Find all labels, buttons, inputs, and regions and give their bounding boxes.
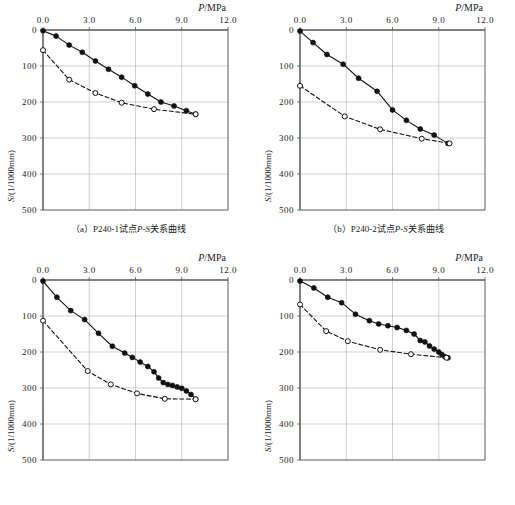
y-tick-label: 100 bbox=[279, 311, 294, 321]
x-tick-label: 9.0 bbox=[432, 15, 445, 25]
y-tick-label: 0 bbox=[289, 25, 294, 35]
data-point-filled bbox=[339, 300, 344, 305]
data-point-open bbox=[119, 100, 124, 105]
x-axis-title-unit: /MPa bbox=[204, 252, 226, 263]
data-point-filled bbox=[165, 382, 170, 387]
y-axis-title-unit: /(1/1000mm) bbox=[6, 400, 16, 448]
data-point-open bbox=[378, 347, 383, 352]
data-point-filled bbox=[390, 107, 395, 112]
x-tick-label: 3.0 bbox=[340, 265, 353, 275]
data-point-filled bbox=[179, 386, 184, 391]
data-point-filled bbox=[404, 118, 409, 123]
data-point-filled bbox=[132, 83, 137, 88]
x-tick-label: 3.0 bbox=[83, 265, 96, 275]
data-point-open bbox=[298, 83, 303, 88]
x-axis-title: P/MPa bbox=[197, 252, 226, 263]
data-point-filled bbox=[80, 50, 85, 55]
x-tick-label: 9.0 bbox=[175, 265, 188, 275]
data-point-open bbox=[345, 339, 350, 344]
x-tick-label: 0.0 bbox=[294, 265, 307, 275]
y-tick-label: 500 bbox=[22, 455, 37, 465]
data-point-filled bbox=[138, 360, 143, 365]
data-point-filled bbox=[158, 100, 163, 105]
y-tick-label: 100 bbox=[279, 61, 294, 71]
data-point-filled bbox=[376, 321, 381, 326]
data-point-filled bbox=[432, 133, 437, 138]
y-tick-label: 500 bbox=[22, 205, 37, 215]
data-point-filled bbox=[311, 40, 316, 45]
data-point-filled bbox=[122, 351, 127, 356]
data-point-filled bbox=[184, 388, 189, 393]
x-tick-label: 0.0 bbox=[294, 15, 307, 25]
data-point-filled bbox=[93, 58, 98, 63]
x-tick-label: 6.0 bbox=[129, 265, 142, 275]
y-tick-label: 400 bbox=[279, 419, 294, 429]
x-tick-label: 6.0 bbox=[386, 265, 399, 275]
data-point-filled bbox=[170, 383, 175, 388]
data-point-filled bbox=[298, 279, 303, 284]
x-axis-title: P/MPa bbox=[454, 2, 483, 13]
data-point-filled bbox=[41, 28, 46, 33]
data-point-open bbox=[67, 77, 72, 82]
data-point-filled bbox=[110, 344, 115, 349]
x-tick-label: 0.0 bbox=[37, 265, 50, 275]
y-tick-label: 0 bbox=[289, 275, 294, 285]
data-point-filled bbox=[422, 339, 427, 344]
data-point-filled bbox=[395, 325, 400, 330]
caption-b-prefix: （b）P240-2试点 bbox=[328, 224, 395, 234]
data-point-open bbox=[108, 382, 113, 387]
data-point-filled bbox=[418, 338, 423, 343]
data-point-filled bbox=[311, 285, 316, 290]
data-point-filled bbox=[96, 331, 101, 336]
data-point-filled bbox=[161, 380, 166, 385]
data-point-filled bbox=[175, 384, 180, 389]
y-axis-title: S/(1/1000mm) bbox=[263, 400, 273, 452]
data-point-filled bbox=[356, 76, 361, 81]
x-tick-label: 9.0 bbox=[175, 15, 188, 25]
y-tick-label: 0 bbox=[32, 25, 37, 35]
chart-svg-c: 0.03.06.09.012.00100200300400500P/MPaS/(… bbox=[0, 250, 257, 505]
data-point-filled bbox=[427, 343, 432, 348]
data-point-open bbox=[342, 114, 347, 119]
data-point-filled bbox=[172, 103, 177, 108]
y-tick-label: 400 bbox=[279, 169, 294, 179]
data-point-open bbox=[193, 112, 198, 117]
x-axis-title-unit: /MPa bbox=[204, 2, 226, 13]
chart-svg-a: 0.03.06.09.012.00100200300400500P/MPaS/(… bbox=[0, 0, 257, 250]
x-axis-title: P/MPa bbox=[454, 252, 483, 263]
data-point-filled bbox=[385, 323, 390, 328]
data-point-filled bbox=[106, 67, 111, 72]
data-point-filled bbox=[375, 89, 380, 94]
data-point-filled bbox=[367, 318, 372, 323]
chart-panel-c: 0.03.06.09.012.00100200300400500P/MPaS/(… bbox=[0, 250, 257, 505]
y-tick-label: 200 bbox=[279, 97, 294, 107]
data-point-open bbox=[444, 355, 449, 360]
chart-svg-b: 0.03.06.09.012.00100200300400500P/MPaS/(… bbox=[257, 0, 515, 250]
caption-a-symbol: P-S bbox=[137, 224, 150, 234]
data-point-filled bbox=[412, 332, 417, 337]
chart-caption-a: （a）P240-1试点P-S关系曲线 bbox=[0, 222, 257, 235]
x-axis-title-unit: /MPa bbox=[461, 2, 483, 13]
x-tick-label: 0.0 bbox=[37, 15, 50, 25]
y-tick-label: 400 bbox=[22, 419, 37, 429]
data-point-open bbox=[41, 318, 46, 323]
data-point-filled bbox=[156, 375, 161, 380]
data-point-filled bbox=[325, 295, 330, 300]
x-axis-title-symbol: P bbox=[454, 2, 461, 13]
data-point-open bbox=[409, 352, 414, 357]
x-axis-title-unit: /MPa bbox=[461, 252, 483, 263]
caption-b-suffix: 关系曲线 bbox=[408, 224, 444, 234]
data-point-filled bbox=[54, 295, 59, 300]
x-tick-label: 3.0 bbox=[340, 15, 353, 25]
data-point-open bbox=[378, 127, 383, 132]
caption-b-symbol: P-S bbox=[395, 224, 408, 234]
data-point-filled bbox=[324, 52, 329, 57]
data-point-filled bbox=[145, 92, 150, 97]
data-point-open bbox=[298, 302, 303, 307]
data-point-open bbox=[93, 91, 98, 96]
y-axis-title: S/(1/1000mm) bbox=[6, 150, 16, 202]
y-tick-label: 300 bbox=[279, 383, 294, 393]
data-point-open bbox=[447, 141, 452, 146]
chart-caption-b: （b）P240-2试点P-S关系曲线 bbox=[257, 222, 515, 235]
x-tick-label: 6.0 bbox=[386, 15, 399, 25]
